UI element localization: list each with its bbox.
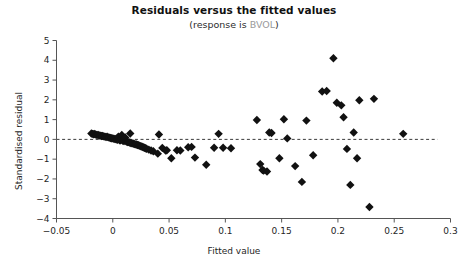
data-point xyxy=(155,130,163,138)
y-tick-label: −3 xyxy=(36,194,49,204)
x-tick-label: −0.05 xyxy=(43,226,71,236)
data-point xyxy=(329,54,337,62)
data-point xyxy=(302,116,310,124)
data-point xyxy=(399,130,407,138)
y-tick-label: −4 xyxy=(36,214,50,224)
data-point xyxy=(202,161,210,169)
plot-area: −4−3−2−1012345 −0.0500.050.10.150.20.250… xyxy=(0,0,468,264)
data-points xyxy=(87,54,407,211)
data-point xyxy=(227,144,235,152)
data-point xyxy=(309,151,317,159)
data-point xyxy=(349,128,357,136)
data-point xyxy=(353,154,361,162)
data-point xyxy=(339,113,347,121)
data-point xyxy=(355,96,363,104)
scatter-chart: Residuals versus the fitted values (resp… xyxy=(0,0,468,264)
data-point xyxy=(365,203,373,211)
y-tick-label: −1 xyxy=(36,154,49,164)
data-point xyxy=(191,153,199,161)
data-point xyxy=(275,154,283,162)
data-point xyxy=(219,143,227,151)
x-tick-label: 0.05 xyxy=(159,226,179,236)
y-tick-label: −2 xyxy=(36,174,49,184)
data-point xyxy=(343,145,351,153)
data-point xyxy=(253,116,261,124)
y-tick-label: 0 xyxy=(44,135,50,145)
y-tick-label: 1 xyxy=(44,115,50,125)
y-tick-label: 2 xyxy=(44,95,50,105)
x-tick-label: 0.15 xyxy=(272,226,292,236)
y-tick-label: 3 xyxy=(44,75,50,85)
data-point xyxy=(283,134,291,142)
x-axis: −0.0500.050.10.150.20.250.3 xyxy=(43,219,458,236)
y-tick-label: 4 xyxy=(44,55,50,65)
data-point xyxy=(370,95,378,103)
x-tick-label: 0.25 xyxy=(384,226,404,236)
x-tick-label: 0.2 xyxy=(331,226,345,236)
data-point xyxy=(167,154,175,162)
data-point xyxy=(280,115,288,123)
y-axis: −4−3−2−1012345 xyxy=(36,36,56,224)
x-tick-label: 0.3 xyxy=(443,226,457,236)
x-tick-label: 0 xyxy=(110,226,116,236)
data-point xyxy=(291,162,299,170)
data-point xyxy=(346,181,354,189)
data-point xyxy=(298,178,306,186)
x-tick-label: 0.1 xyxy=(218,226,232,236)
data-point xyxy=(210,143,218,151)
data-point xyxy=(214,130,222,138)
y-tick-label: 5 xyxy=(44,36,50,46)
